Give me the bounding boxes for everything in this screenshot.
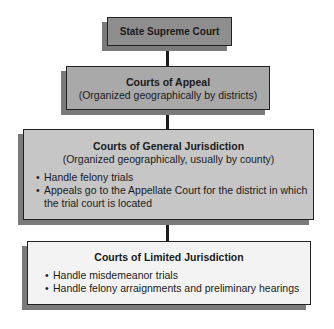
bullet-item: Appeals go to the Appellate Court for th…	[36, 184, 313, 210]
box-courts-general-jurisdiction: Courts of General Jurisdiction (Organize…	[23, 129, 314, 220]
bullet-list: Handle felony trials Appeals go to the A…	[36, 171, 313, 210]
box-subtitle: (Organized geographically, usually by co…	[24, 153, 313, 166]
box-courts-limited-jurisdiction: Courts of Limited Jurisdiction Handle mi…	[27, 241, 311, 305]
box-title: Courts of Appeal	[67, 76, 269, 89]
box-title: Courts of General Jurisdiction	[24, 140, 313, 153]
box-title: State Supreme Court	[120, 25, 219, 38]
bullet-list: Handle misdemeanor trials Handle felony …	[45, 269, 310, 295]
box-courts-of-appeal: Courts of Appeal (Organized geographical…	[66, 66, 270, 110]
box-subtitle: (Organized geographically by districts)	[67, 89, 269, 102]
bullet-item: Handle felony arraignments and prelimina…	[45, 282, 310, 295]
box-state-supreme-court: State Supreme Court	[107, 17, 232, 46]
bullet-item: Handle felony trials	[36, 171, 313, 184]
box-title: Courts of Limited Jurisdiction	[28, 251, 310, 264]
bullet-item: Handle misdemeanor trials	[45, 269, 310, 282]
